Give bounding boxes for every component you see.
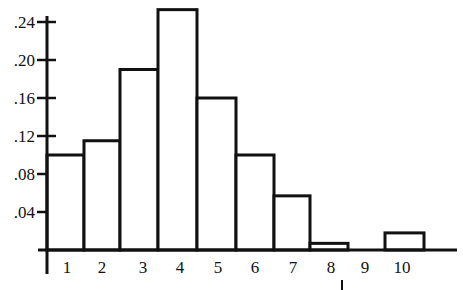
x-axis-labels: 12345678910 <box>63 258 411 277</box>
x-tick-label: 6 <box>251 258 260 277</box>
histogram-bars <box>47 10 424 250</box>
histogram-bar <box>158 10 197 250</box>
y-tick-label: .20 <box>14 51 35 70</box>
y-tick-label: .04 <box>14 203 36 222</box>
x-tick-label: 10 <box>394 258 411 277</box>
y-tick-label: .12 <box>14 127 35 146</box>
histogram-bar <box>120 70 158 251</box>
histogram-bar <box>47 155 84 250</box>
y-tick-label: .08 <box>14 165 35 184</box>
x-tick-label: 1 <box>63 258 72 277</box>
histogram-bar <box>385 233 424 250</box>
x-tick-label: 5 <box>214 258 223 277</box>
x-tick-label: 7 <box>289 258 298 277</box>
y-tick-label: .16 <box>14 89 35 108</box>
x-tick-label: 2 <box>98 258 107 277</box>
x-tick-label: 8 <box>327 258 336 277</box>
histogram-bar <box>197 98 236 250</box>
x-tick-label: 4 <box>176 258 185 277</box>
x-tick-label: 9 <box>361 258 370 277</box>
histogram-bar <box>274 196 310 250</box>
x-tick-label: 3 <box>139 258 148 277</box>
y-tick-label: .24 <box>14 13 36 32</box>
histogram-bar <box>236 155 274 250</box>
histogram-bar <box>84 141 120 250</box>
histogram-chart: .04.08.12.16.20.24 12345678910 <box>0 0 463 290</box>
